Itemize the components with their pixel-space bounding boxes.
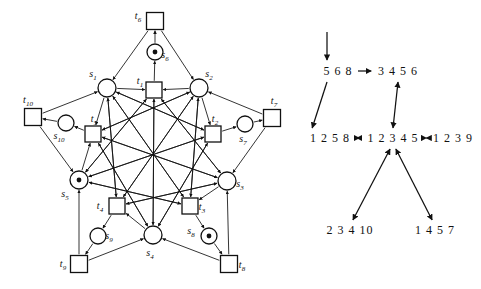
petri-arc-s9-to-t9 bbox=[86, 244, 93, 255]
petri-label-s4: s4 bbox=[146, 247, 154, 261]
transition-t9[interactable] bbox=[71, 256, 88, 273]
petri-arc-s10-to-t10 bbox=[43, 119, 57, 122]
petri-label-t9: t9 bbox=[60, 258, 67, 272]
petri-arc-t7-to-s2 bbox=[208, 92, 262, 114]
place-s2[interactable] bbox=[190, 79, 208, 97]
petri-arc-s8-to-t8 bbox=[214, 243, 222, 254]
petri-label-t4: t4 bbox=[97, 200, 104, 214]
petri-label-s2: s2 bbox=[205, 68, 213, 82]
petri-label-s10: s10 bbox=[54, 130, 65, 144]
transition-t4[interactable] bbox=[109, 198, 125, 214]
petri-arc-s5-to-t3 bbox=[89, 182, 181, 204]
place-s8[interactable] bbox=[201, 228, 217, 244]
petri-arc-s2-to-t2 bbox=[202, 98, 210, 125]
petri-label-s8: s8 bbox=[187, 225, 195, 239]
graph-edge-n12345-to-n23410 bbox=[353, 149, 390, 220]
marking-n1239: 1 2 3 9 bbox=[433, 131, 473, 145]
petri-label-t5: t5 bbox=[91, 113, 98, 127]
transition-box-t9 bbox=[71, 256, 88, 273]
place-s4[interactable] bbox=[144, 226, 162, 244]
place-circle-s7 bbox=[237, 116, 253, 132]
petri-arc-s7-to-t7 bbox=[254, 120, 262, 122]
petri-arc-t1-to-s6 bbox=[154, 61, 155, 81]
transition-t2[interactable] bbox=[205, 126, 221, 142]
petri-label-t1: t1 bbox=[137, 75, 143, 89]
token-s5 bbox=[77, 178, 82, 183]
petri-arc-s1-to-t1 bbox=[117, 88, 145, 89]
petri-arc-t2-to-s7 bbox=[222, 127, 236, 131]
petri-arc-s3-to-t4 bbox=[126, 183, 217, 204]
marking-n12345: 1 2 3 4 5 bbox=[368, 131, 419, 145]
marking-n568: 5 6 8 bbox=[324, 64, 353, 78]
transition-box-t2 bbox=[205, 126, 221, 142]
petri-label-s1: s1 bbox=[89, 68, 96, 82]
petri-arc-s4-to-t4 bbox=[126, 213, 145, 228]
place-circle-s4 bbox=[144, 226, 162, 244]
petri-arc-s2-to-t4 bbox=[123, 96, 193, 196]
place-circle-s9 bbox=[90, 228, 106, 244]
place-s10[interactable] bbox=[58, 115, 74, 131]
petri-label-t2: t2 bbox=[212, 113, 219, 127]
transition-box-t7 bbox=[264, 110, 281, 127]
transition-box-t6 bbox=[147, 13, 164, 30]
petri-label-t10: t10 bbox=[23, 94, 33, 108]
graph-edge-n12345-to-n1457 bbox=[396, 149, 432, 220]
marking-n1258: 1 2 5 8 bbox=[310, 131, 350, 145]
reachability-graph-edges bbox=[312, 32, 432, 220]
place-circle-s3 bbox=[218, 172, 236, 190]
petri-label-t3: t3 bbox=[199, 201, 206, 215]
petri-arc-s2-to-t3 bbox=[191, 98, 199, 197]
petri-label-s3: s3 bbox=[236, 178, 244, 192]
marking-n23410: 2 3 4 10 bbox=[327, 223, 374, 237]
token-s6 bbox=[153, 50, 158, 55]
place-circle-s2 bbox=[190, 79, 208, 97]
petri-arc-t8-to-s3 bbox=[227, 191, 229, 254]
petri-arc-t7-to-s3 bbox=[233, 128, 265, 173]
transition-box-t8 bbox=[221, 256, 238, 273]
transition-t6[interactable] bbox=[147, 13, 164, 30]
petri-arc-s3-to-t5 bbox=[102, 137, 217, 177]
petri-arc-s2-to-t1 bbox=[163, 88, 189, 89]
transition-t1[interactable] bbox=[146, 82, 162, 98]
transition-t10[interactable] bbox=[25, 109, 42, 126]
place-circle-s1 bbox=[98, 79, 116, 97]
petri-arc-s1-to-t3 bbox=[113, 96, 184, 196]
graph-edge-n3456-to-n12345 bbox=[393, 82, 398, 128]
petri-arc-t4-to-s9 bbox=[103, 215, 111, 228]
place-s3[interactable] bbox=[218, 172, 236, 190]
transition-t3[interactable] bbox=[182, 198, 198, 214]
place-s7[interactable] bbox=[237, 116, 253, 132]
petri-arc-s4-to-t1 bbox=[153, 99, 154, 225]
transition-t5[interactable] bbox=[85, 126, 101, 142]
petri-label-s9: s9 bbox=[105, 230, 113, 244]
place-s9[interactable] bbox=[90, 228, 106, 244]
transition-t7[interactable] bbox=[264, 110, 281, 127]
transition-t8[interactable] bbox=[221, 256, 238, 273]
petri-arc-s5-to-t5 bbox=[82, 143, 90, 170]
place-s5[interactable] bbox=[70, 171, 88, 189]
petri-label-t6: t6 bbox=[135, 10, 142, 24]
petri-arc-t10-to-s1 bbox=[43, 92, 98, 113]
petri-arc-s3-to-t3 bbox=[199, 187, 218, 200]
petri-arc-t3-to-s8 bbox=[196, 215, 204, 228]
petri-arc-s1-to-t4 bbox=[108, 98, 116, 197]
transition-box-t5 bbox=[85, 126, 101, 142]
petri-label-t8: t8 bbox=[239, 259, 246, 273]
place-s1[interactable] bbox=[98, 79, 116, 97]
marking-n1457: 1 4 5 7 bbox=[415, 223, 455, 237]
transition-box-t4 bbox=[109, 198, 125, 214]
graph-edge-n568-to-n1258 bbox=[312, 82, 327, 128]
petri-label-s6: s6 bbox=[161, 49, 169, 63]
place-circle-s10 bbox=[58, 115, 74, 131]
petri-arc-t5-to-s10 bbox=[75, 126, 84, 130]
transition-box-t1 bbox=[146, 82, 162, 98]
petri-arc-t6-to-s1 bbox=[113, 31, 148, 80]
transition-box-t3 bbox=[182, 198, 198, 214]
petri-label-s5: s5 bbox=[61, 188, 69, 202]
petri-net-figure: s1s2s3s4s5s6s7s8s9s10t1t2t3t4t5t6t7t8t9t… bbox=[0, 0, 481, 289]
marking-n3456: 3 4 5 6 bbox=[378, 64, 418, 78]
token-s8 bbox=[207, 234, 212, 239]
petri-label-t7: t7 bbox=[271, 95, 278, 109]
reachability-graph-nodes: 5 6 83 4 5 61 2 5 81 2 3 4 51 2 3 92 3 4… bbox=[310, 64, 473, 237]
transition-box-t10 bbox=[25, 109, 42, 126]
